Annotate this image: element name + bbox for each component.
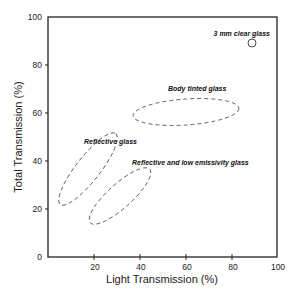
x-tick-60: 60	[182, 262, 192, 272]
x-tick-100: 100	[271, 262, 285, 272]
y-tick-40: 40	[33, 156, 43, 166]
plot-frame	[48, 17, 277, 257]
y-tick-20: 20	[33, 204, 43, 214]
low-e-region	[82, 160, 158, 231]
y-tick-100: 100	[28, 12, 42, 22]
x-axis-label: Light Transmission (%)	[106, 273, 218, 285]
y-tick-60: 60	[33, 108, 43, 118]
y-axis-label: Total Transmission (%)	[12, 81, 24, 192]
reflective-label: Reflective glass	[84, 138, 137, 146]
chart-svg: 100 80 60 40 20 0 20 40 60 80 100 Light …	[0, 0, 296, 301]
x-tick-20: 20	[90, 262, 100, 272]
y-tick-80: 80	[33, 60, 43, 70]
x-tick-40: 40	[136, 262, 146, 272]
x-tick-80: 80	[228, 262, 238, 272]
clear-glass-point	[248, 39, 256, 47]
low-e-label: Reflective and low emissivity glass	[132, 159, 249, 167]
body-tinted-region	[132, 95, 240, 128]
clear-glass-label: 3 mm clear glass	[214, 30, 271, 38]
y-tick-0: 0	[37, 252, 42, 262]
body-tinted-label: Body tinted glass	[168, 85, 226, 93]
